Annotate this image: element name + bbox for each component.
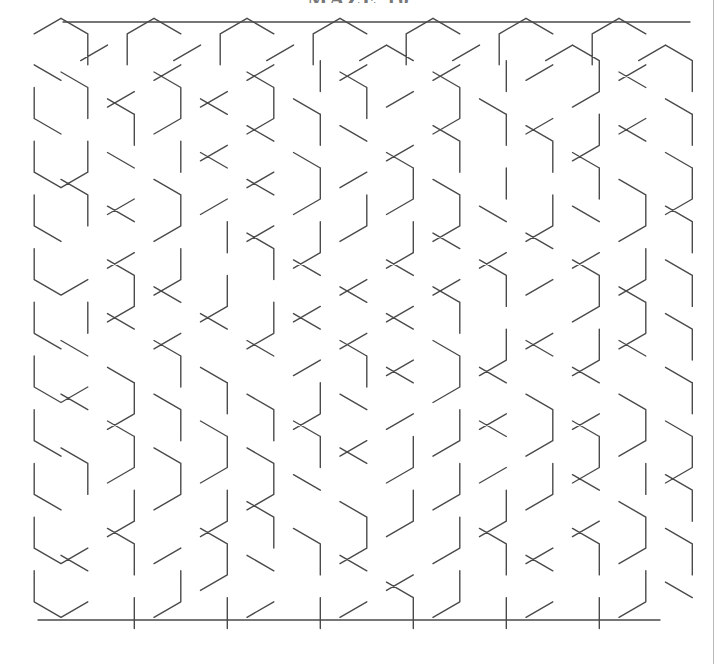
maze-wall-path: [34, 18, 692, 628]
maze-page: MAZE 10: [0, 0, 718, 664]
maze-wall-group: [34, 18, 692, 628]
page-edge-line: [713, 0, 714, 664]
maze-canvas: [0, 0, 718, 664]
